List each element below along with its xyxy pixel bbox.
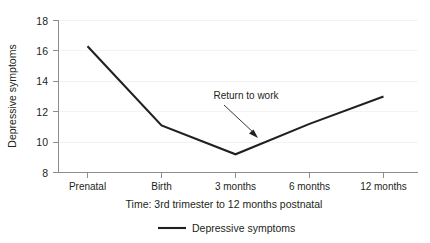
annotation-return-to-work: Return to work [213, 90, 279, 138]
x-tick-label-3-months: 3 months [215, 181, 256, 192]
y-axis-title: Depressive symptoms [6, 44, 18, 147]
x-tick-label-birth: Birth [151, 181, 172, 192]
x-tick-label-prenatal: Prenatal [69, 181, 106, 192]
x-tick-label-6-months: 6 months [289, 181, 330, 192]
y-tick-label-12: 12 [36, 106, 48, 118]
x-tick-label-12-months: 12 months [360, 181, 407, 192]
chart-container: 18 16 14 12 10 8 Depressive symptoms Pre… [0, 0, 430, 243]
x-axis-title: Time: 3rd trimester to 12 months postnat… [126, 198, 323, 210]
y-tick-label-8: 8 [42, 167, 48, 179]
annotation-label: Return to work [213, 90, 279, 101]
line-chart: 18 16 14 12 10 8 Depressive symptoms Pre… [0, 0, 430, 243]
legend: Depressive symptoms [158, 222, 295, 234]
y-tick-label-14: 14 [36, 75, 48, 87]
x-axis: Prenatal Birth 3 months 6 months 12 mont… [58, 173, 418, 193]
grid-lines [58, 21, 418, 143]
y-axis: 18 16 14 12 10 8 [36, 15, 58, 179]
y-tick-label-16: 16 [36, 45, 48, 57]
annotation-arrow-line [224, 105, 255, 134]
legend-label-depressive-symptoms: Depressive symptoms [192, 222, 295, 234]
y-tick-label-18: 18 [36, 15, 48, 27]
annotation-arrow-head-icon [249, 130, 258, 139]
y-tick-label-10: 10 [36, 136, 48, 148]
